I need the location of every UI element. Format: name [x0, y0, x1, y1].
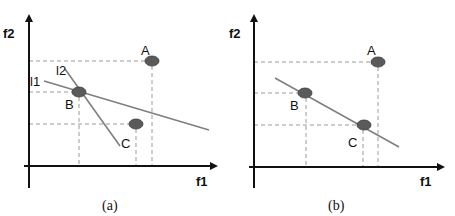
panel-a: f2 f1 A B C l1 l2 (a)	[3, 16, 216, 214]
point-b-label: B	[290, 98, 299, 113]
guide-lines-b	[254, 62, 378, 167]
point-b-label: B	[65, 97, 74, 112]
guide-lines-a	[29, 61, 152, 166]
y-axis-label-b: f2	[229, 26, 241, 41]
point-a	[371, 57, 385, 67]
y-axis-label-a: f2	[3, 26, 15, 41]
caption-a: (a)	[102, 198, 118, 214]
point-b	[298, 88, 312, 98]
line-l2-label: l2	[56, 63, 66, 78]
point-c	[357, 120, 371, 130]
panel-b: f2 f1 A B C (b)	[229, 16, 443, 214]
caption-b: (b)	[328, 198, 345, 214]
x-axis-label-b: f1	[420, 174, 432, 189]
point-c-label: C	[121, 136, 130, 151]
point-a-label: A	[367, 43, 376, 58]
point-c-label: C	[348, 135, 357, 150]
x-axis-label-a: f1	[196, 174, 208, 189]
line-l1-label: l1	[30, 74, 40, 89]
point-a-label: A	[141, 43, 150, 58]
point-c	[129, 119, 143, 129]
point-b	[72, 87, 86, 97]
figure: f2 f1 A B C l1 l2 (a) f2 f1 A B C (b)	[0, 0, 455, 216]
